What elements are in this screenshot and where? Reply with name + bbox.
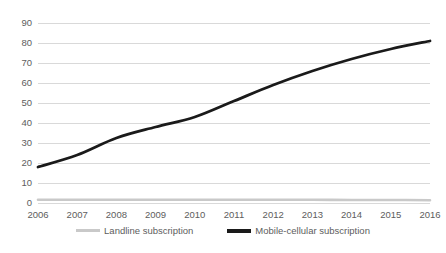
x-tick-label: 2010 <box>184 210 205 220</box>
legend-swatch-icon <box>76 229 100 232</box>
y-tick-label: 80 <box>21 38 32 48</box>
x-tick-label: 2012 <box>263 210 284 220</box>
x-tick-label: 2008 <box>106 210 127 220</box>
x-tick-label: 2011 <box>224 210 244 220</box>
y-tick-label: 90 <box>21 18 32 28</box>
x-tick-label: 2016 <box>419 210 440 220</box>
y-tick-label: 40 <box>21 118 32 128</box>
y-tick-label: 10 <box>21 178 32 188</box>
y-tick-label: 50 <box>21 98 32 108</box>
y-tick-label: 0 <box>27 198 32 208</box>
legend-item[interactable]: Landline subscription <box>76 226 193 236</box>
y-tick-label: 20 <box>21 158 32 168</box>
x-tick-label: 2006 <box>27 210 48 220</box>
x-tick-label: 2013 <box>302 210 323 220</box>
y-tick-label: 70 <box>21 58 32 68</box>
line-chart: 0102030405060708090 20062007200820092010… <box>0 0 446 253</box>
y-tick-label: 30 <box>21 138 32 148</box>
legend-item[interactable]: Mobile-cellular subscription <box>227 226 370 236</box>
x-tick-label: 2015 <box>380 210 401 220</box>
series-lines <box>38 23 430 203</box>
x-tick-label: 2009 <box>145 210 166 220</box>
legend-swatch-icon <box>227 229 251 233</box>
plot-area: 0102030405060708090 20062007200820092010… <box>38 23 430 203</box>
legend-label: Landline subscription <box>104 226 193 236</box>
gridline <box>38 203 430 204</box>
x-tick-label: 2014 <box>341 210 362 220</box>
series-line <box>38 41 430 167</box>
legend-label: Mobile-cellular subscription <box>255 226 370 236</box>
y-tick-label: 60 <box>21 78 32 88</box>
x-tick-label: 2007 <box>67 210 88 220</box>
chart-legend: Landline subscriptionMobile-cellular sub… <box>0 226 446 236</box>
